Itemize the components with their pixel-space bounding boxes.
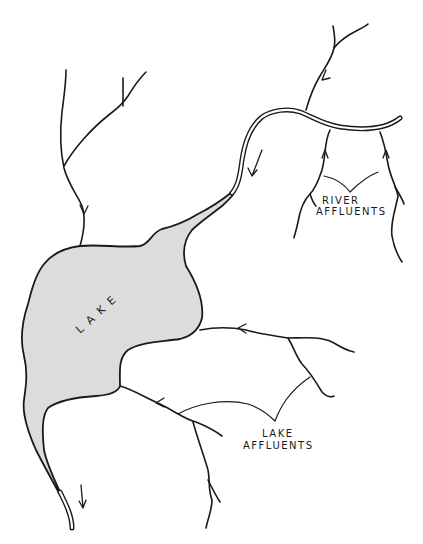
river-affluents-label-line2: AFFLUENTS [316,206,387,217]
lake [22,192,233,510]
upper-river-tributary [306,26,335,110]
lake-affluent-upper-branch [288,338,334,397]
upper-river-tributary-branch [334,24,368,48]
lake-affluent-lower-branch [193,422,212,528]
river-affluent-left [294,130,330,238]
lake-affluents-label-line2: AFFLUENTS [243,440,314,451]
north-inflow-arrow-icon [80,205,88,214]
north-inflow-branch [64,72,146,166]
river-affluent-left-branch [310,194,316,206]
river-affluents-label-line1: RIVER [322,195,360,206]
lake-affluents-diagram: RIVER AFFLUENTS LAKE AFFLUENTS LAKE [0,0,423,544]
lake-affluent-upper [200,328,354,352]
main-river-channel [232,110,400,193]
north-inflow-stream [61,70,84,246]
river-flow-arrow-icon [248,150,262,176]
lake-affluents-bracket [178,377,310,421]
outflow-arrow-icon [79,485,86,508]
river-affluents-bracket [324,172,378,192]
lake-affluents-label-line1: LAKE [262,428,294,439]
lake-affluent-lower [120,386,222,436]
river-affluent-right [380,132,402,262]
